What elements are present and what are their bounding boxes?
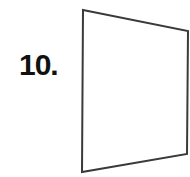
quadrilateral-figure	[0, 0, 190, 177]
quadrilateral-outline	[82, 10, 188, 172]
